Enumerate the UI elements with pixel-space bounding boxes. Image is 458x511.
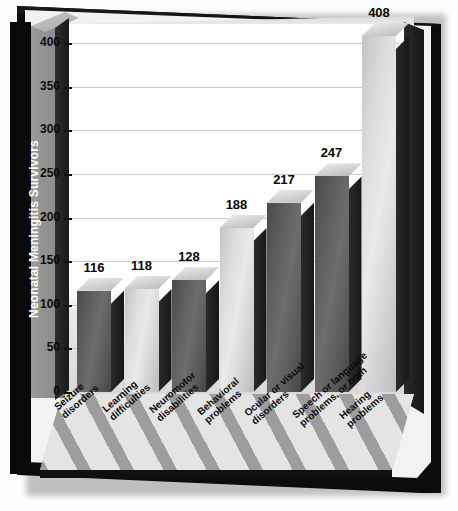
chart-figure: 050100150200250300350400 Neonatal Mening… <box>0 0 458 511</box>
y-axis-tick-mark <box>64 174 72 176</box>
bar-side-face <box>111 291 124 392</box>
y-axis-title-panel: Neonatal Meningitis Survivors <box>10 22 31 474</box>
bar-front-face <box>220 228 254 392</box>
bar-value-label: 128 <box>162 249 216 264</box>
y-axis-title: Neonatal Meningitis Survivors <box>27 9 41 449</box>
bar-front-face <box>315 176 349 392</box>
y-axis-tick-mark <box>64 87 72 89</box>
bar-value-label: 217 <box>257 172 311 187</box>
bar-side-face <box>254 228 267 392</box>
bar-value-label: 247 <box>305 145 359 160</box>
bar-value-label: 408 <box>352 5 406 20</box>
bar-value-label: 118 <box>115 258 169 273</box>
y-axis-tick-mark <box>64 43 72 45</box>
bar-side-face <box>159 289 172 392</box>
bar-side-face <box>396 36 409 392</box>
bar <box>362 36 396 392</box>
y-axis-tick-mark <box>64 305 72 307</box>
y-axis-tick-mark <box>64 348 72 350</box>
y-axis-tick-mark <box>64 130 72 132</box>
bar-value-label: 116 <box>67 260 121 275</box>
bar-side-face <box>206 280 219 392</box>
bar <box>220 228 254 392</box>
bar <box>315 176 349 392</box>
bar-value-label: 188 <box>210 197 264 212</box>
y-axis-tick-mark <box>64 218 72 220</box>
bar-front-face <box>362 36 396 392</box>
